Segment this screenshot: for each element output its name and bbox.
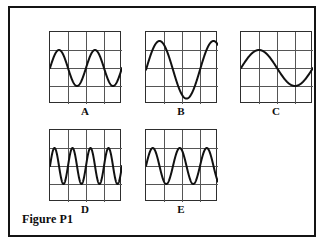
scope-panel-d: D bbox=[49, 129, 121, 201]
waveform-c bbox=[241, 32, 313, 104]
scope-label-e: E bbox=[145, 203, 217, 215]
figure-caption: Figure P1 bbox=[22, 212, 73, 227]
waveform-d bbox=[50, 130, 122, 202]
waveform-e bbox=[146, 130, 218, 202]
graticule-d bbox=[49, 129, 121, 201]
graticule-a bbox=[49, 31, 121, 103]
scope-label-a: A bbox=[49, 105, 121, 117]
waveform-a bbox=[50, 32, 122, 104]
graticule-b bbox=[145, 31, 217, 103]
scope-panel-b: B bbox=[145, 31, 217, 103]
waveform-b bbox=[146, 32, 218, 104]
graticule-e bbox=[145, 129, 217, 201]
scope-panel-e: E bbox=[145, 129, 217, 201]
scope-panel-c: C bbox=[240, 31, 312, 103]
graticule-c bbox=[240, 31, 312, 103]
scope-label-c: C bbox=[240, 105, 312, 117]
scope-panel-a: A bbox=[49, 31, 121, 103]
scope-label-b: B bbox=[145, 105, 217, 117]
figure-frame: A B C D E Figure P1 bbox=[8, 6, 316, 237]
